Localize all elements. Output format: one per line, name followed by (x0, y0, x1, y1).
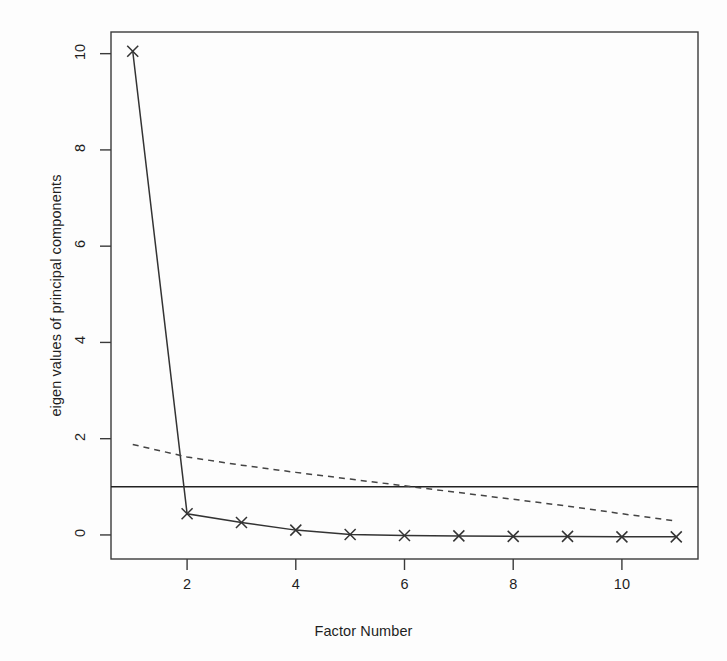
x-tick-label: 2 (167, 576, 207, 592)
data-series-group (127, 46, 682, 543)
y-tick-label: 8 (72, 135, 88, 161)
x-axis-title: Factor Number (0, 623, 727, 639)
scree-plot-figure: eigen values of principal components Fac… (0, 0, 727, 661)
y-tick-label: 4 (72, 327, 88, 353)
x-tick-label: 8 (493, 576, 533, 592)
y-axis-title: eigen values of principal components (48, 32, 68, 559)
x-tick-label: 10 (602, 576, 642, 592)
series-pc-simulated-data (133, 444, 677, 521)
y-tick-label: 0 (72, 520, 88, 546)
plot-canvas (0, 0, 727, 661)
y-tick-label: 6 (72, 231, 88, 257)
series-line (133, 51, 677, 537)
y-tick-label: 10 (72, 39, 88, 65)
x-tick-label: 6 (385, 576, 425, 592)
x-tick-label: 4 (276, 576, 316, 592)
x-axis-ticks (187, 559, 622, 570)
series-line (133, 444, 677, 521)
y-tick-label: 2 (72, 424, 88, 450)
plot-box (111, 32, 698, 559)
series-pc-actual-data (127, 46, 682, 543)
y-axis-ticks (100, 54, 111, 535)
